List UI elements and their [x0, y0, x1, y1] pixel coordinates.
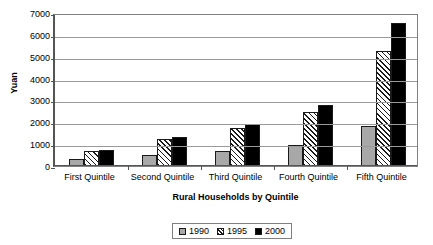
bar	[215, 151, 230, 166]
x-axis-tickmark	[274, 166, 275, 170]
y-axis-tick-label: 7000	[14, 10, 50, 19]
x-axis-tickmark	[347, 166, 348, 170]
bar	[172, 137, 187, 167]
y-axis-tick-label: 5000	[14, 53, 50, 62]
y-axis-tickmark	[51, 124, 55, 125]
bar	[84, 151, 99, 166]
gridline	[55, 59, 417, 60]
y-axis-tickmark	[51, 168, 55, 169]
bar	[318, 105, 333, 166]
legend-label: 2000	[265, 226, 285, 236]
x-axis-tickmark	[128, 166, 129, 170]
y-axis-tick-labels: 01000200030004000500060007000	[14, 14, 50, 167]
gridline	[55, 81, 417, 82]
x-axis-category-label: Third Quintile	[199, 172, 272, 183]
x-axis-category-label: First Quintile	[53, 172, 126, 183]
y-axis-tickmark	[51, 59, 55, 60]
legend-swatch-icon	[179, 228, 186, 235]
bar	[99, 150, 114, 166]
y-axis-tickmark	[51, 146, 55, 147]
legend-item: 1995	[217, 226, 247, 236]
x-axis-category-label: Second Quintile	[126, 172, 199, 183]
bar	[288, 145, 303, 166]
legend-swatch-icon	[217, 228, 224, 235]
y-axis-tickmark	[51, 15, 55, 16]
bar	[391, 23, 406, 166]
x-axis-category-labels: First QuintileSecond QuintileThird Quint…	[53, 172, 418, 186]
x-axis-baseline	[55, 165, 417, 166]
y-axis-tickmark	[51, 81, 55, 82]
y-axis-tick-label: 4000	[14, 75, 50, 84]
x-axis-category-label: Fifth Quintile	[345, 172, 418, 183]
y-axis-tickmark	[51, 102, 55, 103]
chart-legend: 199019952000	[172, 223, 292, 239]
bar	[303, 112, 318, 166]
legend-item: 1990	[179, 226, 209, 236]
y-axis-tick-label: 0	[14, 163, 50, 172]
x-axis-title: Rural Households by Quintile	[53, 192, 418, 202]
gridline	[55, 37, 417, 38]
legend-item: 2000	[255, 226, 285, 236]
bar	[157, 139, 172, 166]
bar-chart: Yuan 01000200030004000500060007000 First…	[0, 0, 433, 245]
y-axis-tick-label: 1000	[14, 141, 50, 150]
legend-label: 1990	[189, 226, 209, 236]
y-axis-tick-label: 6000	[14, 31, 50, 40]
plot-area	[53, 14, 418, 167]
y-axis-tickmark	[51, 37, 55, 38]
gridline	[55, 102, 417, 103]
gridline	[55, 146, 417, 147]
bar	[376, 51, 391, 166]
legend-swatch-icon	[255, 228, 262, 235]
legend-label: 1995	[227, 226, 247, 236]
gridline	[55, 124, 417, 125]
x-axis-tickmark	[201, 166, 202, 170]
x-axis-category-label: Fourth Quintile	[272, 172, 345, 183]
y-axis-tick-label: 2000	[14, 119, 50, 128]
y-axis-tick-label: 3000	[14, 97, 50, 106]
